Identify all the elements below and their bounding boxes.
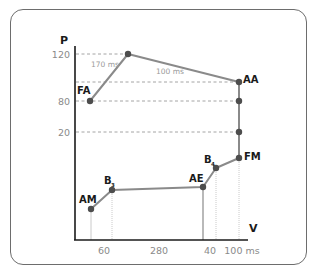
x-axis-label: V <box>249 222 258 235</box>
y-tick-120: 120 <box>52 49 70 60</box>
point-ae <box>200 184 206 190</box>
label-b3-sub: 3 <box>111 182 115 188</box>
point-fa <box>87 98 93 104</box>
x-tick-280: 280 <box>150 245 168 256</box>
point-80 <box>236 98 242 104</box>
segment-label-100ms: 100 ms <box>156 67 184 76</box>
label-fm: FM <box>244 151 261 162</box>
label-aa: AA <box>243 74 259 85</box>
x-tick-40: 40 <box>204 245 216 256</box>
label-b4-sub: 4 <box>211 161 215 167</box>
label-fa: FA <box>77 85 91 96</box>
x-tick-100ms: 100 ms <box>224 245 259 256</box>
pv-loop-diagram: P V 120 80 20 60 280 40 100 ms 170 ms 10… <box>0 0 318 275</box>
segment-label-170ms: 170 ms <box>91 60 119 69</box>
point-fm <box>236 155 242 161</box>
point-20 <box>236 129 242 135</box>
label-ae: AE <box>189 173 204 184</box>
point-am <box>88 206 94 212</box>
y-tick-80: 80 <box>58 96 70 107</box>
point-aa <box>236 79 242 85</box>
label-am: AM <box>79 194 97 205</box>
point-peak <box>125 51 131 57</box>
y-axis-label: P <box>60 34 68 47</box>
x-tick-60: 60 <box>98 245 110 256</box>
y-tick-20: 20 <box>58 127 70 138</box>
